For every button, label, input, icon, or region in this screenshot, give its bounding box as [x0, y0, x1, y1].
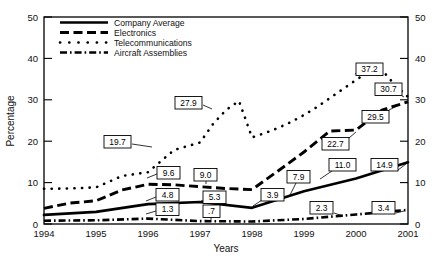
data-label-text: 9.0	[200, 170, 212, 180]
x-tick-1997: 1997	[189, 228, 210, 239]
y-right-tick-30: 30	[415, 94, 426, 105]
data-label-text: 2.3	[316, 203, 328, 213]
data-label-0-7: .7	[203, 205, 220, 220]
x-tick-1996: 1996	[137, 228, 158, 239]
data-label-text: 11.0	[335, 160, 351, 170]
data-label-30-7: 30.7	[375, 83, 404, 97]
y-right-tick-20: 20	[415, 136, 426, 147]
data-label-text: 3.9	[267, 190, 279, 200]
data-label-text: 4.8	[162, 190, 174, 200]
y-right-tick-10: 10	[415, 177, 426, 188]
y-right-tick-50: 50	[415, 12, 426, 23]
y-left-tick-50: 50	[27, 12, 38, 23]
y-left-tick-30: 30	[27, 94, 38, 105]
y-axis-title: Percentage	[5, 95, 16, 147]
x-tick-2001: 2001	[397, 228, 418, 239]
data-label-text: 5.3	[209, 192, 221, 202]
x-tick-2000: 2000	[345, 228, 366, 239]
legend-label-telecommunications: Telecommunications	[114, 38, 192, 48]
line-chart-svg: 50 40 30 20 10 0 50 40 30 20 10 0 Percen…	[0, 0, 442, 269]
legend-label-electronics: Electronics	[114, 28, 156, 38]
data-label-text: 9.6	[163, 168, 175, 178]
x-tick-1998: 1998	[241, 228, 262, 239]
data-label-text: .7	[208, 206, 215, 216]
x-tick-1994: 1994	[33, 228, 54, 239]
data-label-text: 30.7	[380, 84, 397, 94]
data-label-text: 29.5	[367, 112, 384, 122]
data-label-text: 37.2	[361, 64, 378, 74]
data-label-text: 3.4	[378, 203, 390, 213]
y-left-tick-20: 20	[27, 136, 38, 147]
x-tick-1999: 1999	[293, 228, 314, 239]
data-label-text: 14.9	[376, 160, 393, 170]
figure-background	[0, 0, 442, 269]
data-label-text: 1.3	[162, 204, 174, 214]
y-right-tick-40: 40	[415, 53, 426, 64]
chart-figure: 50 40 30 20 10 0 50 40 30 20 10 0 Percen…	[0, 0, 442, 269]
data-label-5-3: 5.3	[201, 191, 226, 204]
data-label-text: 19.7	[109, 137, 126, 147]
y-left-tick-40: 40	[27, 53, 38, 64]
data-label-text: 27.9	[180, 98, 197, 108]
x-axis-title: Years	[213, 243, 238, 254]
legend-label-aircraft-assemblies: Aircraft Assemblies	[114, 48, 187, 58]
legend-label-company-average: Company Average	[114, 18, 185, 28]
x-tick-1995: 1995	[85, 228, 106, 239]
data-label-text: 7.9	[293, 172, 305, 182]
data-label-37-2: 37.2	[355, 63, 383, 76]
data-label-text: 22.7	[327, 139, 344, 149]
y-left-tick-10: 10	[27, 177, 38, 188]
